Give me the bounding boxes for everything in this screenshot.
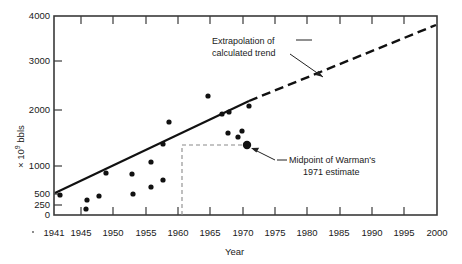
data-point (225, 130, 230, 135)
data-point (239, 128, 244, 133)
data-point (148, 184, 153, 189)
chart-figure: × 109 bbls 4000 3000 2000 1000 500 250 0… (0, 0, 462, 264)
axis-frame (54, 16, 437, 215)
data-point (57, 192, 62, 197)
data-point (103, 170, 108, 175)
x-axis-ticks-bottom (81, 207, 404, 215)
extrapolation-trend-line (249, 25, 436, 101)
data-point (205, 93, 210, 98)
x-axis-ticks-top (81, 16, 404, 24)
origin-dot-marker (32, 231, 34, 233)
data-point (160, 177, 165, 182)
warman-midpoint-marker (243, 141, 251, 149)
plot-canvas (0, 0, 462, 264)
data-point (148, 159, 153, 164)
warman-annotation-leader (251, 148, 287, 160)
extrapolation-annotation-leader (290, 40, 323, 77)
data-point (166, 119, 171, 124)
data-point (235, 134, 240, 139)
warman-guide-lines (182, 145, 247, 215)
data-point (84, 197, 89, 202)
data-point (130, 191, 135, 196)
data-point (246, 103, 251, 108)
data-point (83, 206, 88, 211)
data-point-group (57, 93, 251, 211)
data-point (129, 171, 134, 176)
y-axis-ticks (54, 61, 62, 205)
data-point (160, 141, 165, 146)
data-point (96, 193, 101, 198)
data-point (226, 109, 231, 114)
data-point (219, 111, 224, 116)
